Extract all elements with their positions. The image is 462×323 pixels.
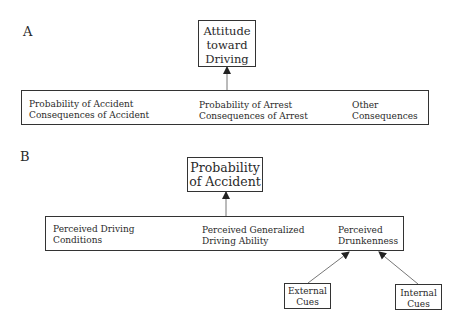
box-line: of Accident — [188, 175, 262, 189]
arrow-internal — [379, 252, 418, 284]
factor-other: OtherConsequences — [352, 100, 418, 121]
box-line: Driving — [199, 52, 255, 66]
factor-arrest: Probability of ArrestConsequences of Arr… — [199, 100, 308, 121]
panel-b-factors-bar: Perceived DrivingConditions Perceived Ge… — [45, 216, 404, 251]
panel-a-label: A — [23, 24, 32, 39]
external-cues-box: ExternalCues — [284, 283, 331, 309]
attitude-box: Attitude toward Driving — [198, 20, 256, 67]
panel-a-factors-bar: Probability of AccidentConsequences of A… — [21, 90, 429, 125]
factor-driving-ability: Perceived GeneralizedDriving Ability — [202, 225, 304, 246]
factor-accident: Probability of AccidentConsequences of A… — [29, 99, 149, 120]
probability-accident-box: Probability of Accident — [187, 157, 263, 192]
arrow-external — [308, 252, 349, 283]
box-line: Probability — [188, 161, 262, 175]
factor-driving-conditions: Perceived DrivingConditions — [53, 224, 134, 245]
internal-cues-box: InternalCues — [395, 284, 442, 310]
box-line: toward — [199, 38, 255, 52]
factor-drunkenness: PerceivedDrunkenness — [338, 225, 398, 246]
box-line: Attitude — [199, 24, 255, 38]
panel-b-label: B — [20, 149, 30, 164]
